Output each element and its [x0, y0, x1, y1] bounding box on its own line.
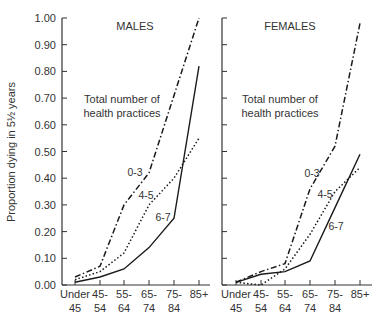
y-tick-label: 0.20	[35, 226, 56, 238]
x-tick-label: Under	[221, 288, 251, 300]
males-title: MALES	[116, 20, 153, 32]
females-label-6-7: 6-7	[328, 220, 343, 232]
x-tick-label: 65-	[302, 288, 318, 300]
females-annotation-line1: Total number of	[242, 93, 319, 105]
females-title: FEMALES	[264, 20, 315, 32]
x-tick-label-line2: 45	[69, 302, 81, 314]
males-label-4-5: 4-5	[138, 189, 153, 201]
x-tick-label: 65-	[141, 288, 157, 300]
x-tick-label: 55-	[116, 288, 132, 300]
x-tick-label: 55-	[277, 288, 293, 300]
x-tick-label: 85+	[190, 288, 209, 300]
series-line-6-7	[236, 154, 360, 282]
males-panel: 0.000.100.200.300.400.500.600.700.800.90…	[35, 12, 210, 314]
y-tick-label: 0.10	[35, 252, 56, 264]
x-tick-label: Under	[60, 288, 90, 300]
males-annotation-line1: Total number of	[84, 93, 161, 105]
y-tick-label: 0.90	[35, 39, 56, 51]
x-tick-label-line2: 54	[255, 302, 267, 314]
y-tick-label: 0.30	[35, 199, 56, 211]
females-annotation-line2: health practices	[241, 107, 319, 119]
x-tick-label: 75-	[327, 288, 343, 300]
males-label-6-7: 6-7	[155, 211, 170, 223]
x-tick-label-line2: 74	[304, 302, 316, 314]
y-tick-label: 0.80	[35, 65, 56, 77]
x-tick-label: 85+	[351, 288, 370, 300]
y-tick-label: 0.60	[35, 119, 56, 131]
x-tick-label: 45-	[253, 288, 269, 300]
x-tick-label-line2: 45	[230, 302, 242, 314]
y-tick-label: 0.50	[35, 146, 56, 158]
y-tick-label: 0.70	[35, 92, 56, 104]
females-label-0-3: 0-3	[304, 167, 319, 179]
x-tick-label-line2: 64	[118, 302, 130, 314]
females-label-4-5: 4-5	[317, 188, 332, 200]
x-tick-label-line2: 54	[94, 302, 106, 314]
x-tick-label-line2: 84	[168, 302, 180, 314]
y-tick-label: 1.00	[35, 12, 56, 24]
males-label-0-3: 0-3	[127, 166, 142, 178]
series-line-0-3	[236, 23, 360, 282]
y-tick-label: 0.40	[35, 172, 56, 184]
mortality-chart: Proportion dying in 5½ years 0.000.100.2…	[0, 0, 384, 328]
x-tick-label-line2: 84	[329, 302, 341, 314]
y-tick-label: 0.00	[35, 279, 56, 291]
x-tick-label: 45-	[92, 288, 108, 300]
x-tick-label-line2: 64	[279, 302, 291, 314]
series-line-0-3	[75, 18, 199, 277]
x-tick-label-line2: 74	[143, 302, 155, 314]
x-tick-label: 75-	[166, 288, 182, 300]
females-panel: Under4545-5455-6465-7475-8485+	[221, 18, 372, 314]
males-annotation-line2: health practices	[83, 107, 161, 119]
y-axis-label: Proportion dying in 5½ years	[5, 81, 17, 222]
